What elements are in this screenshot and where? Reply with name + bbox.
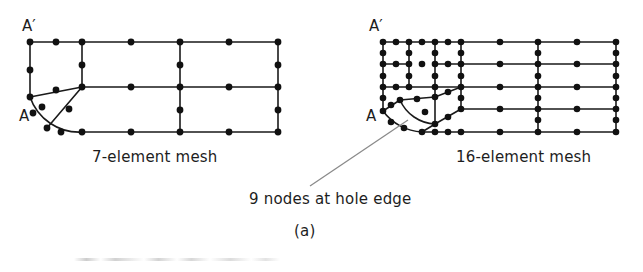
node [613,84,620,91]
node [432,94,439,101]
node [380,84,387,91]
node [497,39,504,46]
node [406,50,413,57]
node [613,61,620,68]
figure-root: A′ A A′ A 7-element mesh 16-element mesh… [0,0,643,272]
node [535,84,542,91]
node [613,129,620,136]
node-hole-edge [432,121,439,128]
section-label-a-prime-left: A′ [22,17,36,35]
node [226,84,233,91]
node [535,50,542,57]
node [177,129,184,136]
scan-artifact [74,258,280,261]
node [226,129,233,136]
node [574,106,581,113]
node [458,39,465,46]
node [419,39,426,46]
node [535,61,542,68]
node [535,106,542,113]
node [432,61,439,68]
left-mesh-edges [30,42,278,132]
node [535,95,542,102]
node [613,73,620,80]
left-hole-arc [30,97,82,132]
node [177,39,184,46]
node-hole-edge [53,87,60,94]
node [406,39,413,46]
node [458,73,465,80]
left-mesh-group [27,39,282,136]
node [27,67,34,74]
node [497,61,504,68]
node-hole-edge [419,129,426,136]
node [275,129,282,136]
node [380,50,387,57]
node [574,61,581,68]
node [275,62,282,69]
hole-edge-annotation: 9 nodes at hole edge [249,190,412,208]
node [445,89,452,96]
node [458,50,465,57]
node [380,39,387,46]
node [574,84,581,91]
node [535,117,542,124]
node [275,84,282,91]
node [535,39,542,46]
node [53,39,60,46]
node-hole-edge [39,104,46,111]
node-hole-edge [44,125,51,132]
node [406,84,413,91]
node [432,129,439,136]
node [458,129,465,136]
node [497,106,504,113]
node [535,129,542,136]
node [445,39,452,46]
mesh-diagram-canvas [0,0,643,272]
node [458,106,465,113]
mesh-caption-right: 16-element mesh [456,148,591,166]
node-hole-edge [30,110,37,117]
section-label-a-right: A [366,107,376,125]
node [445,129,452,136]
node [27,94,34,101]
node [393,84,400,91]
node [177,62,184,69]
node [128,39,135,46]
node [79,129,86,136]
node-hole-edge [58,129,65,136]
node-hole-edge [414,96,421,103]
node [497,129,504,136]
node [79,39,86,46]
right-hole-arc-inner [400,100,435,124]
node [432,84,439,91]
node [574,129,581,136]
node [393,61,400,68]
node [380,95,387,102]
node [275,39,282,46]
node [128,84,135,91]
section-label-a-left: A [19,107,29,125]
node [613,95,620,102]
node [128,129,135,136]
node-hole-edge [397,97,404,104]
node-hole-edge [380,108,387,115]
node [419,61,426,68]
node [79,84,86,91]
node [432,73,439,80]
node-hole-edge [388,119,395,126]
node [613,39,620,46]
node [458,84,465,91]
node-mid-radial [66,106,73,113]
node [380,73,387,80]
node [177,84,184,91]
section-label-a-prime-right: A′ [369,17,383,35]
node [432,39,439,46]
node [613,117,620,124]
node [458,61,465,68]
node [406,73,413,80]
node [275,107,282,114]
node [432,50,439,57]
node [497,84,504,91]
node-hole-edge [388,102,395,109]
